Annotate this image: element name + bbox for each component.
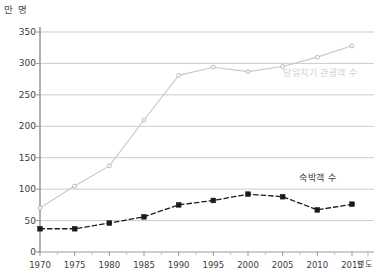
- series-label-overnight: 숙박객 수: [299, 171, 336, 184]
- data-point-1: [176, 202, 181, 207]
- data-point-1: [315, 207, 320, 212]
- data-point-0: [350, 44, 354, 48]
- data-point-1: [72, 226, 77, 231]
- data-point-0: [211, 65, 215, 69]
- data-point-0: [107, 164, 111, 168]
- series-line-1: [40, 194, 352, 229]
- data-point-1: [350, 202, 355, 207]
- data-point-0: [177, 73, 181, 77]
- data-point-1: [38, 226, 43, 231]
- line-chart: 만 명 년도 050100150200250300350 19701975198…: [0, 0, 386, 280]
- plot-area: [0, 0, 386, 280]
- data-point-0: [315, 55, 319, 59]
- data-point-0: [142, 118, 146, 122]
- data-point-0: [38, 206, 42, 210]
- data-point-1: [107, 221, 112, 226]
- data-point-0: [246, 70, 250, 74]
- data-point-1: [246, 192, 251, 197]
- data-point-1: [280, 194, 285, 199]
- data-point-1: [211, 198, 216, 203]
- data-point-1: [142, 214, 147, 219]
- data-point-0: [73, 184, 77, 188]
- series-label-daytrip: 당일치기 관광객 수: [283, 66, 358, 79]
